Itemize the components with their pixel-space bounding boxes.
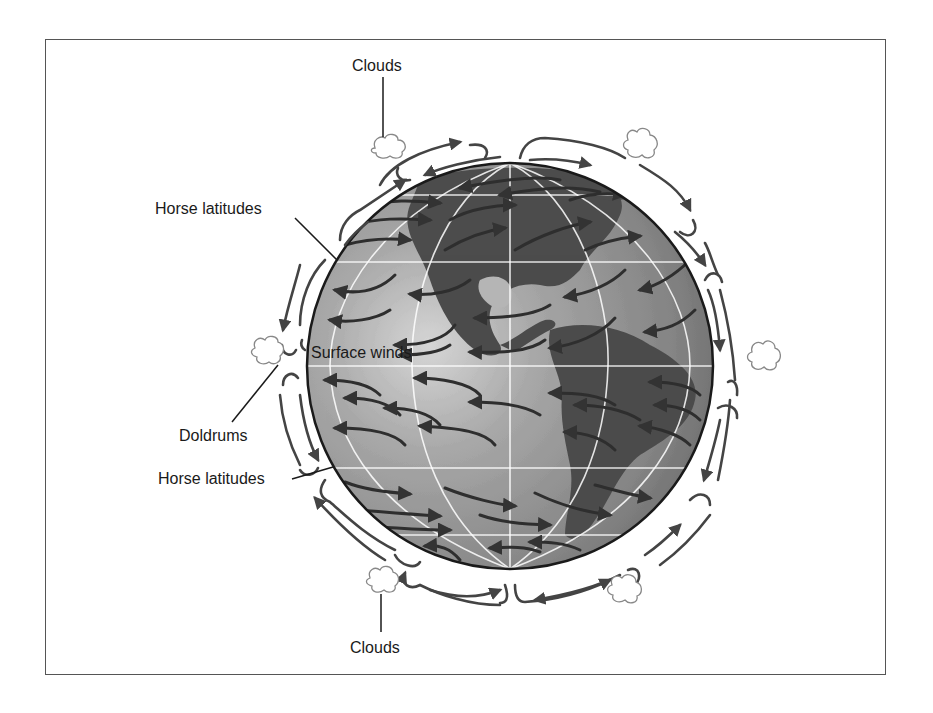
circulation-diagram (0, 0, 933, 713)
label-clouds-bottom: Clouds (350, 640, 400, 656)
label-surface-winds: Surface winds (311, 345, 412, 361)
cloud-icon-right (748, 341, 781, 370)
leader-doldrums (232, 365, 278, 422)
leader-horse-latitudes-south (292, 467, 333, 479)
globe (300, 163, 720, 569)
cloud-icon-top-left (371, 134, 405, 158)
label-horse-latitudes-north: Horse latitudes (155, 201, 262, 217)
label-doldrums: Doldrums (179, 428, 247, 444)
label-horse-latitudes-south: Horse latitudes (158, 471, 265, 487)
cloud-icon-bottom-left (366, 566, 398, 592)
leader-horse-latitudes-north (295, 218, 337, 260)
cloud-icon-bottom-right (608, 575, 642, 603)
cloud-icon-left (251, 336, 283, 363)
cloud-icon-top-right (624, 128, 658, 157)
label-clouds-top: Clouds (352, 58, 402, 74)
